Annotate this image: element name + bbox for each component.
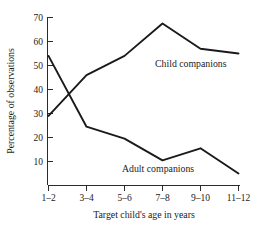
x-tick-label-1-2: 1–2 (41, 193, 56, 203)
x-tick-label-11-12: 11–12 (227, 193, 251, 203)
y-axis-ticks (48, 18, 53, 162)
x-tick-label-7-8: 7–8 (155, 193, 170, 203)
y-tick-label-20: 20 (34, 133, 44, 143)
y-tick-label-70: 70 (34, 13, 44, 23)
series-annotation-adult-companions: Adult companions (122, 163, 194, 174)
series-line-adult-companions (49, 56, 239, 174)
y-tick-label-50: 50 (34, 61, 44, 71)
chart-canvas: 70 60 50 40 30 20 10 1–2 3–4 5–6 7–8 9–1… (0, 0, 261, 229)
x-axis-title: Target child's age in years (93, 209, 195, 220)
y-axis-title: Percentage of observations (5, 48, 16, 154)
x-tick-label-3-4: 3–4 (79, 193, 94, 203)
y-tick-label-10: 10 (34, 157, 44, 167)
x-tick-label-9-10: 9–10 (191, 193, 210, 203)
y-tick-label-60: 60 (34, 37, 44, 47)
y-tick-label-30: 30 (34, 109, 44, 119)
series-annotation-child-companions: Child companions (155, 58, 227, 69)
series-line-child-companions (49, 24, 239, 116)
line-chart-figure: 70 60 50 40 30 20 10 1–2 3–4 5–6 7–8 9–1… (0, 0, 261, 229)
y-tick-label-40: 40 (34, 85, 44, 95)
x-tick-label-5-6: 5–6 (117, 193, 132, 203)
x-axis-ticks (49, 186, 239, 191)
